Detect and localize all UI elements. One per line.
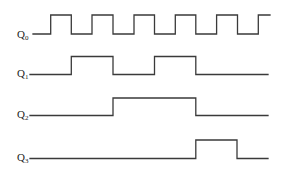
label-text: Q bbox=[17, 28, 25, 40]
label-subscript: 1 bbox=[25, 73, 29, 81]
waveform-q0 bbox=[33, 15, 270, 34]
label-text: Q bbox=[17, 108, 25, 120]
waveform-q1 bbox=[30, 57, 268, 75]
signal-label-q1: Q1 bbox=[17, 68, 28, 81]
label-subscript: 3 bbox=[25, 157, 29, 165]
waveform-q3 bbox=[30, 140, 268, 159]
label-text: Q bbox=[17, 151, 25, 163]
timing-diagram: Q0 Q1 Q2 Q3 bbox=[0, 0, 284, 178]
label-subscript: 0 bbox=[25, 34, 29, 42]
waveform-q2 bbox=[30, 98, 268, 116]
signal-label-q0: Q0 bbox=[17, 29, 28, 42]
label-text: Q bbox=[17, 67, 25, 79]
signal-label-q3: Q3 bbox=[17, 152, 28, 165]
signal-label-q2: Q2 bbox=[17, 109, 28, 122]
waveforms bbox=[0, 0, 284, 178]
label-subscript: 2 bbox=[25, 114, 29, 122]
